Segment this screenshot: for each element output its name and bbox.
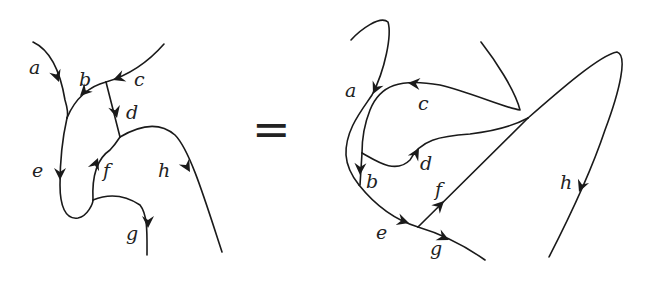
label-h: h — [158, 159, 170, 181]
strand-e — [60, 118, 93, 218]
label-a: a — [345, 79, 356, 101]
arrow-b-icon — [354, 163, 366, 175]
label-a: a — [29, 56, 40, 78]
arrow-c-icon — [407, 77, 420, 90]
label-c: c — [134, 68, 145, 90]
strand-a — [33, 42, 68, 118]
strand-g — [418, 227, 485, 260]
arrow-c-icon — [111, 70, 126, 85]
arrow-e-icon — [396, 214, 411, 229]
label-b: b — [79, 68, 91, 90]
label-h: h — [560, 171, 572, 193]
equals-sign: = — [252, 102, 291, 156]
string-diagram-equation: a b c d e f g h = a b — [0, 0, 655, 282]
label-g: g — [126, 222, 138, 244]
strand-h — [528, 52, 622, 257]
right-diagram: a b c d e f g h — [345, 20, 622, 260]
strand-a — [346, 20, 389, 185]
label-c: c — [418, 92, 429, 114]
label-e: e — [32, 159, 43, 181]
arrow-g-icon — [142, 216, 154, 228]
strand-g — [93, 196, 147, 255]
left-diagram: a b c d e f g h — [29, 42, 222, 255]
label-e: e — [376, 221, 387, 243]
label-g: g — [430, 237, 442, 259]
label-f: f — [433, 178, 445, 200]
label-b: b — [366, 170, 378, 192]
label-f: f — [101, 159, 113, 181]
label-d: d — [420, 152, 432, 174]
label-d: d — [126, 101, 138, 123]
